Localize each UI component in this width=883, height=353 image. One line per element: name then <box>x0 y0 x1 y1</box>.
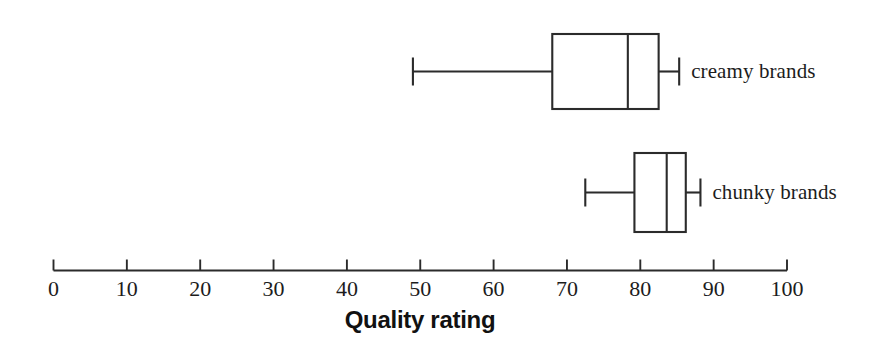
x-axis-tick-label-100: 100 <box>771 276 804 302</box>
boxplot-creamy-brands <box>413 34 679 109</box>
x-axis-tick-label-50: 50 <box>409 276 431 302</box>
chunky-iqr-box <box>634 153 685 232</box>
x-axis-tick-label-40: 40 <box>336 276 358 302</box>
series-label-chunky-brands: chunky brands <box>712 180 836 205</box>
x-axis-tick-label-80: 80 <box>629 276 651 302</box>
series-label-creamy-brands: creamy brands <box>691 59 815 84</box>
x-axis-tick-label-20: 20 <box>189 276 211 302</box>
x-axis-title: Quality rating <box>345 306 496 334</box>
x-axis-tick-label-30: 30 <box>263 276 285 302</box>
x-axis-ticks <box>54 260 788 271</box>
x-axis-tick-label-10: 10 <box>116 276 138 302</box>
x-axis-tick-label-70: 70 <box>556 276 578 302</box>
x-axis <box>54 260 788 271</box>
x-axis-tick-label-0: 0 <box>48 276 59 302</box>
creamy-iqr-box <box>552 34 658 109</box>
x-axis-tick-label-90: 90 <box>703 276 725 302</box>
boxplot-chunky-brands <box>585 153 700 232</box>
x-axis-tick-label-60: 60 <box>483 276 505 302</box>
box-plot-figure: creamy brands chunky brands 010203040506… <box>0 0 883 353</box>
